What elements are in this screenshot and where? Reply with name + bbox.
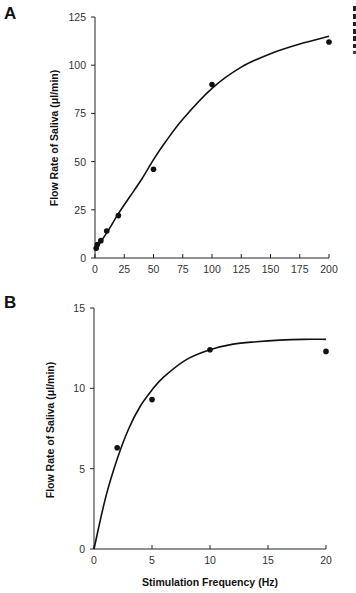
- y-tick-label: 10: [73, 382, 85, 394]
- y-tick-label: 50: [74, 156, 86, 168]
- y-axis-title-b: Flow Rate of Saliva (μl/min): [44, 362, 56, 499]
- y-tick-label: 100: [68, 59, 86, 71]
- data-point: [326, 39, 332, 45]
- y-tick-label: 15: [73, 302, 85, 314]
- x-tick-label: 125: [232, 263, 250, 275]
- chart-a: 02550751001250255075100125150175200: [68, 11, 337, 275]
- panel-label-a: A: [4, 4, 16, 23]
- x-tick-label: 0: [92, 263, 98, 275]
- x-tick-label: 200: [320, 263, 338, 275]
- x-tick-label: 175: [291, 263, 309, 275]
- y-tick-label: 25: [74, 204, 86, 216]
- x-tick-label: 20: [320, 554, 332, 566]
- x-tick-label: 75: [177, 263, 189, 275]
- y-tick-label: 0: [79, 543, 85, 555]
- fit-curve: [94, 339, 326, 549]
- y-tick-label: 0: [80, 252, 86, 264]
- x-axis-title-b: Stimulation Frequency (Hz): [142, 576, 278, 588]
- x-tick-label: 150: [262, 263, 280, 275]
- panel-label-b: B: [4, 293, 16, 312]
- y-tick-label: 125: [68, 11, 86, 23]
- x-tick-label: 10: [204, 554, 216, 566]
- data-point: [151, 167, 157, 173]
- chart-b: 05101505101520: [73, 302, 332, 566]
- x-tick-label: 0: [91, 554, 97, 566]
- x-tick-label: 50: [148, 263, 160, 275]
- figure: A B 02550751001250255075100125150175200 …: [0, 0, 356, 593]
- data-point: [149, 397, 155, 403]
- y-tick-label: 75: [74, 107, 86, 119]
- y-tick-label: 5: [79, 463, 85, 475]
- x-tick-label: 15: [262, 554, 274, 566]
- data-point: [114, 445, 120, 451]
- x-tick-label: 25: [118, 263, 130, 275]
- x-tick-label: 5: [149, 554, 155, 566]
- data-point: [323, 349, 329, 355]
- x-tick-label: 100: [203, 263, 221, 275]
- y-axis-title-a: Flow Rate of Saliva (μl/min): [48, 70, 60, 207]
- fit-curve: [95, 36, 329, 250]
